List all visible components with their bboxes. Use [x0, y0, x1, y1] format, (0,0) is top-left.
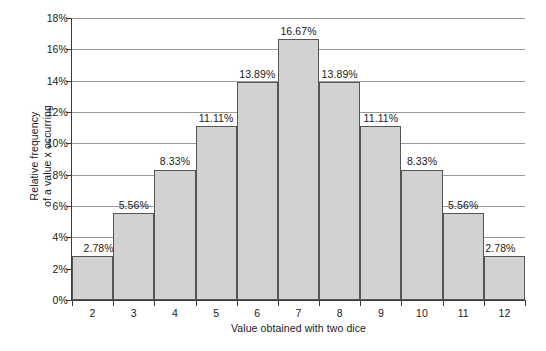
relative-frequency-bar-chart: Relative frequency of a value x occurrin…	[0, 0, 546, 351]
y-axis-tick-label: 6%	[36, 201, 68, 212]
bar	[237, 82, 278, 300]
y-axis-tick-label: 2%	[36, 264, 68, 275]
bar-value-label: 8.33%	[155, 156, 195, 167]
y-axis-tick-label: 0%	[36, 295, 68, 306]
bar-value-label: 13.89%	[237, 69, 277, 80]
bar-value-label: 5.56%	[443, 200, 483, 211]
x-axis-tick-mark	[278, 300, 279, 306]
y-axis-tick-label: 10%	[36, 138, 68, 149]
x-axis-tick-label: 4	[154, 308, 196, 319]
bar	[319, 82, 360, 300]
y-axis-tick-label: 12%	[36, 107, 68, 118]
bar-value-label: 2.78%	[480, 243, 520, 254]
x-axis-tick-label: 10	[401, 308, 443, 319]
bar-value-label: 8.33%	[402, 156, 442, 167]
x-axis-tick-mark	[237, 300, 238, 306]
bar	[72, 256, 113, 300]
x-axis-tick-label: 5	[195, 308, 237, 319]
x-axis-tick-label: 12	[483, 308, 525, 319]
bar	[278, 39, 319, 300]
bar-value-label: 5.56%	[114, 200, 154, 211]
x-axis-tick-mark	[443, 300, 444, 306]
x-axis-tick-label: 8	[319, 308, 361, 319]
bar	[196, 126, 237, 300]
x-axis-tick-mark	[360, 300, 361, 306]
x-axis-tick-label: 6	[236, 308, 278, 319]
plot-area	[72, 18, 525, 300]
bar	[443, 213, 484, 300]
axis-baseline	[72, 300, 525, 301]
x-axis-tick-mark	[525, 300, 526, 306]
x-axis-tick-label: 2	[72, 308, 114, 319]
x-axis-tick-mark	[72, 300, 73, 306]
bar-value-label: 2.78%	[79, 243, 119, 254]
x-axis-tick-mark	[401, 300, 402, 306]
bar	[484, 256, 525, 300]
bar	[154, 170, 195, 301]
x-axis-tick-label: 3	[113, 308, 155, 319]
y-axis-tick-label: 4%	[36, 232, 68, 243]
x-axis-title: Value obtained with two dice	[72, 322, 525, 334]
bar-value-label: 16.67%	[279, 26, 319, 37]
y-axis-tick-label: 16%	[36, 44, 68, 55]
bar	[113, 213, 154, 300]
y-axis-tick-label: 18%	[36, 13, 68, 24]
bar-value-label: 11.11%	[196, 113, 236, 124]
bar-value-label: 11.11%	[361, 113, 401, 124]
x-axis-tick-mark	[196, 300, 197, 306]
y-axis-tick-labels: 0%2%4%6%8%10%12%14%16%18%	[32, 0, 68, 351]
x-axis-tick-mark	[319, 300, 320, 306]
bar-value-label: 13.89%	[320, 69, 360, 80]
y-axis-tick-label: 8%	[36, 170, 68, 181]
y-axis-tick-label: 14%	[36, 76, 68, 87]
x-axis-tick-label: 11	[442, 308, 484, 319]
bar	[360, 126, 401, 300]
bar-series	[72, 18, 525, 300]
x-axis-tick-mark	[484, 300, 485, 306]
x-axis-tick-label: 7	[278, 308, 320, 319]
x-axis-tick-label: 9	[360, 308, 402, 319]
x-axis-tick-mark	[113, 300, 114, 306]
x-axis-tick-mark	[154, 300, 155, 306]
bar	[401, 170, 442, 301]
